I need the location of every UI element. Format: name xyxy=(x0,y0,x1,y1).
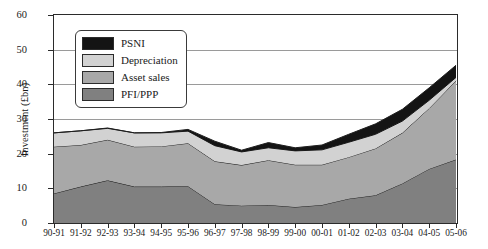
x-axis-tick-mark xyxy=(54,224,55,228)
y-axis-tick-label: 20 xyxy=(1,149,27,160)
y-axis-tick-label: 10 xyxy=(1,183,27,194)
x-axis-tick-mark xyxy=(215,224,216,228)
legend-swatch-icon xyxy=(82,88,114,101)
x-axis-tick-label: 01-02 xyxy=(338,228,360,238)
x-axis-tick-label: 94-95 xyxy=(150,228,172,238)
x-axis-tick-label: 00-01 xyxy=(311,228,333,238)
y-axis-tick-label: 60 xyxy=(1,10,27,21)
y-axis-tick-label: 50 xyxy=(1,45,27,56)
y-axis-tick-label: 40 xyxy=(1,79,27,90)
x-axis-tick-label: 93-94 xyxy=(124,228,146,238)
x-axis-tick-mark xyxy=(376,224,377,228)
x-axis-tick-label: 91-92 xyxy=(70,228,92,238)
x-axis-tick-mark xyxy=(456,224,457,228)
y-axis-tick-label: 30 xyxy=(1,114,27,125)
legend-item-label: Asset sales xyxy=(121,72,170,83)
legend-item-label: Depreciation xyxy=(121,55,178,66)
legend-rows: PSNIDepreciationAsset salesPFI/PPP xyxy=(82,35,178,103)
y-axis-tick-label: 0 xyxy=(1,218,27,229)
chart-container: Investment (£bn) 0102030405060 90-9191-9… xyxy=(0,0,488,249)
x-axis-tick-mark xyxy=(134,224,135,228)
x-axis-tick-label: 92-93 xyxy=(97,228,119,238)
x-axis-tick-label: 90-91 xyxy=(43,228,65,238)
x-axis-tick-mark xyxy=(108,224,109,228)
x-axis-tick-mark xyxy=(242,224,243,228)
x-axis-tick-label: 97-98 xyxy=(231,228,253,238)
x-axis-tick-label: 02-03 xyxy=(365,228,387,238)
x-axis-tick-mark xyxy=(322,224,323,228)
legend-item: PFI/PPP xyxy=(82,86,178,103)
x-axis-tick-mark xyxy=(295,224,296,228)
x-axis-tick-mark xyxy=(188,224,189,228)
x-axis-tick-mark xyxy=(402,224,403,228)
x-axis-tick-label: 05-06 xyxy=(445,228,467,238)
x-axis-tick-mark xyxy=(349,224,350,228)
x-axis-tick-label: 96-97 xyxy=(204,228,226,238)
legend-item-label: PFI/PPP xyxy=(121,89,158,100)
legend-item: Depreciation xyxy=(82,52,178,69)
x-axis-tick-label: 99-00 xyxy=(284,228,306,238)
x-axis-tick-label: 04-05 xyxy=(418,228,440,238)
legend-swatch-icon xyxy=(82,71,114,84)
legend-item: PSNI xyxy=(82,35,178,52)
chart-legend: PSNIDepreciationAsset salesPFI/PPP xyxy=(75,30,187,108)
legend-swatch-icon xyxy=(82,54,114,67)
legend-swatch-icon xyxy=(82,37,114,50)
x-axis-tick-mark xyxy=(429,224,430,228)
x-axis-tick-mark xyxy=(81,224,82,228)
x-axis-tick-label: 98-99 xyxy=(258,228,280,238)
x-axis-tick-mark xyxy=(268,224,269,228)
legend-item-label: PSNI xyxy=(121,38,145,49)
x-axis-tick-label: 95-96 xyxy=(177,228,199,238)
legend-item: Asset sales xyxy=(82,69,178,86)
x-axis-tick-label: 03-04 xyxy=(392,228,414,238)
x-axis-tick-mark xyxy=(161,224,162,228)
